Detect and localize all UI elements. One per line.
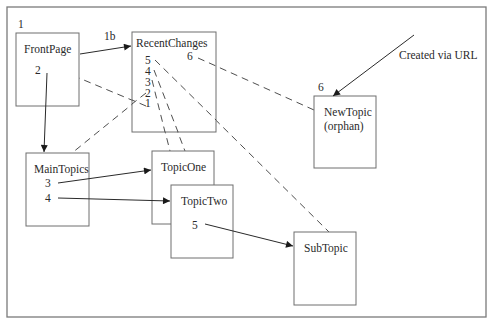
topictwo-link-5: 5: [192, 219, 198, 231]
subtopic-title: SubTopic: [304, 242, 348, 255]
maintopics-link-4: 4: [45, 192, 51, 204]
topictwo-title: TopicTwo: [181, 195, 228, 208]
frontpage-link-2: 2: [35, 64, 41, 76]
rc-link-1: 1: [145, 97, 151, 109]
maintopics-title: MainTopics: [34, 163, 89, 176]
step-6-label: 6: [318, 81, 324, 93]
newtopic-title: NewTopic: [324, 106, 372, 119]
created-via-url-label: Created via URL: [399, 49, 478, 61]
recentchanges-title: RecentChanges: [136, 37, 208, 50]
frontpage-title: FrontPage: [24, 43, 71, 56]
newtopic-subtitle: (orphan): [324, 120, 364, 133]
step-1b-label: 1b: [104, 30, 116, 42]
topicone-title: TopicOne: [161, 161, 206, 174]
edge-url-newtopic: [333, 35, 414, 96]
maintopics-link-3: 3: [45, 177, 51, 189]
wiki-link-diagram: 1 FrontPage 2 RecentChanges 5 4 3 2 1 6 …: [0, 0, 492, 326]
edge-frontpage-recentchanges: [80, 46, 131, 54]
step-1-label: 1: [18, 18, 24, 30]
rc-link-6: 6: [187, 50, 193, 62]
